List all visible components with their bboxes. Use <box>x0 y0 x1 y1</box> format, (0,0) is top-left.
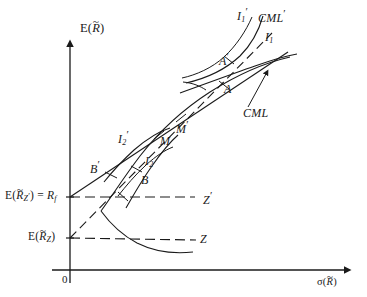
cml-leader-line <box>248 74 266 107</box>
origin-label-text: 0 <box>62 273 68 285</box>
prime-icon: ′ <box>283 7 285 19</box>
diagram-canvas <box>0 0 367 297</box>
label-B-prime-base: B <box>90 162 98 176</box>
label-Z-prime: Z′ <box>203 190 212 206</box>
label-I1-sub: 1 <box>269 36 273 45</box>
label-I2: I2 <box>145 155 153 169</box>
y-axis-label-suffix: ) <box>100 21 104 35</box>
label-A-base: A <box>224 82 232 96</box>
label-I2-prime: I2′ <box>118 129 129 147</box>
prime-icon: ′ <box>126 128 128 140</box>
label-Z-prime-base: Z <box>203 193 210 207</box>
x-axis-label-accent: ~ <box>327 272 333 282</box>
label-CML-prime-base: CML <box>258 11 283 25</box>
label-A-prime: A′ <box>219 51 229 67</box>
prime-icon: ′ <box>98 158 100 170</box>
label-B-base: B <box>141 173 149 187</box>
prime-icon: ′ <box>227 50 229 62</box>
label-I1-prime: I1′ <box>237 6 248 24</box>
label-M-prime-base: M <box>176 122 186 136</box>
y-axis-label-prefix: E( <box>80 21 92 35</box>
prime-icon: ′ <box>186 118 188 130</box>
erz-label-lead: E( <box>28 230 39 242</box>
label-CML-base: CML <box>243 106 268 120</box>
cml-prime-line <box>70 33 272 238</box>
x-axis-label-suffix: ) <box>333 276 337 287</box>
prime-icon: ′ <box>210 189 212 201</box>
label-B: B <box>141 174 149 186</box>
rf-label-accent: ~ <box>17 185 23 195</box>
label-A-prime-base: A <box>219 54 227 68</box>
label-CML-prime: CML′ <box>258 8 286 24</box>
label-M-prime: M′ <box>176 119 189 135</box>
rf-label-mid: ) = <box>30 189 47 201</box>
x-axis-label: σ(~R) <box>317 277 337 288</box>
inefficient-frontier-curve <box>101 211 193 253</box>
figure-container: E(~R) σ(~R) 0 E(~RZ′) = Rf E(~RZ) I1′ CM… <box>0 0 367 297</box>
label-Z-base: Z <box>200 232 207 246</box>
rf-level-label: E(~RZ′) = Rf <box>5 190 57 203</box>
label-Z: Z <box>200 233 207 245</box>
y-axis-label: E(~R) <box>80 22 104 35</box>
label-A: A <box>224 83 232 95</box>
y-axis-label-accent: ~ <box>93 17 99 27</box>
label-I1: I1 <box>265 31 273 45</box>
label-B-prime: B′ <box>90 159 100 175</box>
label-M: M <box>160 135 170 147</box>
origin-label: 0 <box>62 274 68 285</box>
rf-label-lead: E( <box>5 189 16 201</box>
label-I2-sub: 2 <box>149 160 153 169</box>
indifference-curve-I1-prime-arc <box>182 17 252 78</box>
label-M-base: M <box>160 134 170 148</box>
erz-level-line <box>70 238 196 240</box>
prime-icon: ′ <box>245 5 247 17</box>
rf-label-rhs-sub: f <box>54 194 56 203</box>
label-CML: CML <box>243 107 268 119</box>
x-axis-label-prefix: σ( <box>317 276 327 287</box>
erz-label-accent: ~ <box>40 226 46 236</box>
erz-label-mid: ) <box>51 230 55 242</box>
erz-level-label: E(~RZ) <box>28 231 55 244</box>
